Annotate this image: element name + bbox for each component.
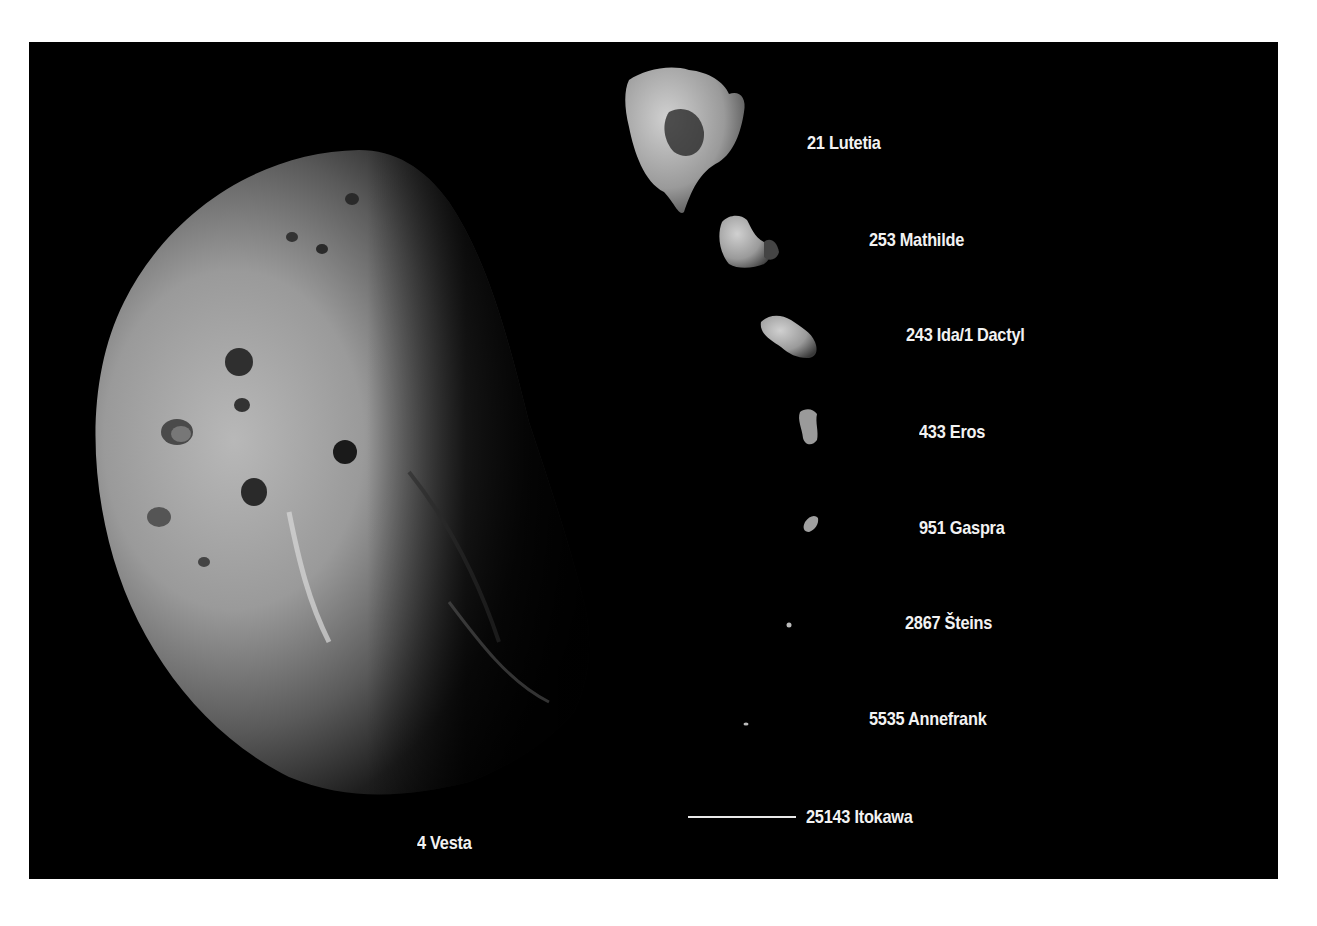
gaspra-image bbox=[804, 516, 819, 532]
label-eros: 433 Eros bbox=[919, 421, 985, 443]
vesta-image bbox=[95, 150, 589, 795]
label-gaspra: 951 Gaspra bbox=[919, 517, 1005, 539]
label-vesta: 4 Vesta bbox=[417, 832, 472, 854]
label-mathilde: 253 Mathilde bbox=[869, 229, 964, 251]
asteroid-comparison-panel: 21 Lutetia 253 Mathilde 243 Ida/1 Dactyl… bbox=[29, 42, 1278, 879]
asteroid-images bbox=[29, 42, 1278, 879]
label-lutetia: 21 Lutetia bbox=[807, 132, 881, 154]
lutetia-image bbox=[625, 68, 744, 213]
steins-image bbox=[787, 623, 792, 628]
label-annefrank: 5535 Annefrank bbox=[869, 708, 986, 730]
annefrank-image bbox=[744, 722, 749, 725]
label-ida: 243 Ida/1 Dactyl bbox=[906, 324, 1025, 346]
label-steins: 2867 Šteins bbox=[905, 612, 992, 634]
mathilde-image bbox=[719, 216, 779, 268]
itokawa-scale-line bbox=[688, 816, 796, 818]
ida-image bbox=[761, 316, 817, 358]
label-itokawa: 25143 Itokawa bbox=[806, 806, 913, 828]
eros-image bbox=[799, 409, 818, 444]
